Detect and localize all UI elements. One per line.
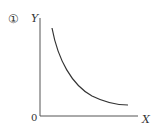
chart-area	[0, 0, 156, 129]
curve-line	[52, 28, 128, 105]
